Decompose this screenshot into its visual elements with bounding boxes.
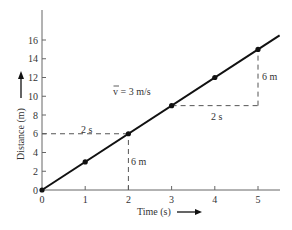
x-tick-label: 2 (126, 194, 131, 205)
data-point (169, 103, 174, 108)
distance-time-chart: 0123450246810121416 Time (s) Distance (m… (0, 0, 292, 230)
y-tick-label: 0 (33, 185, 38, 196)
x-axis-arrow-icon (177, 209, 202, 215)
x-tick-label: 3 (169, 194, 174, 205)
x-tick-label: 5 (256, 194, 261, 205)
data-series (39, 35, 279, 192)
run-label-1: 2 s (81, 124, 93, 135)
run-label-2: 2 s (211, 111, 223, 122)
y-tick-label: 8 (33, 110, 38, 121)
y-tick-label: 10 (28, 91, 38, 102)
rise-label-1: 6 m (131, 156, 147, 167)
x-tick-label: 4 (212, 194, 217, 205)
rise-label-2: 6 m (262, 71, 278, 82)
y-axis-arrow-icon (18, 71, 24, 98)
data-point (126, 131, 131, 136)
ticks: 0123450246810121416 (28, 35, 261, 206)
y-tick-label: 6 (33, 128, 38, 139)
y-tick-label: 14 (28, 53, 38, 64)
data-point (39, 187, 44, 192)
distance-line (42, 35, 280, 190)
y-tick-label: 2 (33, 166, 38, 177)
y-tick-label: 16 (28, 35, 38, 46)
average-velocity-label: v = 3 m/s (113, 86, 151, 97)
x-axis-title: Time (s) (137, 206, 171, 218)
data-point (212, 75, 217, 80)
data-point (255, 47, 260, 52)
x-tick-label: 1 (83, 194, 88, 205)
x-tick-label: 0 (40, 194, 45, 205)
axes (42, 10, 280, 190)
y-tick-label: 12 (28, 72, 38, 83)
y-axis-title: Distance (m) (15, 108, 27, 160)
data-point (83, 159, 88, 164)
y-tick-label: 4 (33, 147, 38, 158)
